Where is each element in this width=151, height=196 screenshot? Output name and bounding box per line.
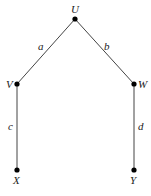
edge-label-c: c — [8, 120, 13, 132]
node-v — [14, 81, 19, 86]
node-label-v: V — [6, 78, 14, 90]
node-w — [131, 81, 136, 86]
node-u — [72, 16, 77, 21]
node-y — [131, 167, 136, 172]
nodes — [14, 16, 136, 172]
node-label-w: W — [138, 78, 148, 90]
edges — [17, 19, 134, 170]
tree-diagram: U V W X Y a b c d — [0, 0, 151, 196]
edge-label-b: b — [104, 40, 110, 52]
edge-label-a: a — [38, 40, 44, 52]
node-label-u: U — [71, 3, 80, 15]
edge-label-d: d — [138, 120, 144, 132]
node-label-y: Y — [130, 174, 138, 186]
node-x — [14, 167, 19, 172]
labels: U V W X Y a b c d — [6, 3, 148, 186]
edge-a — [17, 19, 75, 84]
node-label-x: X — [12, 174, 21, 186]
